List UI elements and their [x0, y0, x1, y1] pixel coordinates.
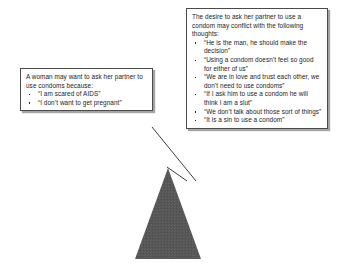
- bullet-dot-icon: [195, 120, 196, 121]
- list-item: “I am scared of AIDS”: [26, 90, 147, 99]
- list-item-label: “We don’t talk about those sort of thing…: [204, 108, 321, 115]
- bullet-dot-icon: [195, 94, 196, 95]
- list-item-label: “He is the man, he should make the decis…: [204, 39, 307, 55]
- list-item-label: “I am scared of AIDS”: [38, 90, 100, 97]
- connector-right-callout: [167, 167, 187, 181]
- bullet-dot-icon: [195, 42, 196, 43]
- callout-box-right: The desire to ask her partner to use a c…: [186, 8, 328, 129]
- bullet-dot-icon: [195, 111, 196, 112]
- bullet-dot-icon: [29, 102, 30, 103]
- list-item-label: “I don’t want to get pregnant”: [38, 99, 122, 106]
- list-item: “Using a condom doesn’t feel so good for…: [192, 56, 322, 73]
- bullet-dot-icon: [195, 77, 196, 78]
- list-item: “He is the man, he should make the decis…: [192, 39, 322, 56]
- callout-box-left: A woman may want to ask her partner to u…: [20, 68, 153, 111]
- list-item: “I don’t want to get pregnant”: [26, 99, 147, 108]
- diagram-canvas: A woman may want to ask her partner to u…: [0, 0, 338, 273]
- list-item-label: “It is a sin to use a condom”: [204, 116, 284, 123]
- list-item: “If I ask him to use a condom he will th…: [192, 90, 322, 107]
- bullet-dot-icon: [29, 94, 30, 95]
- callout-left-bullet-list: “I am scared of AIDS” “I don’t want to g…: [26, 90, 147, 107]
- list-item: “It is a sin to use a condom”: [192, 116, 322, 125]
- callout-right-body: The desire to ask her partner to use a c…: [187, 9, 327, 128]
- callout-right-lead: The desire to ask her partner to use a c…: [192, 13, 322, 39]
- callout-left-lead: A woman may want to ask her partner to u…: [26, 73, 147, 90]
- bullet-dot-icon: [195, 60, 196, 61]
- callout-left-body: A woman may want to ask her partner to u…: [21, 69, 152, 110]
- callout-right-bullet-list: “He is the man, he should make the decis…: [192, 39, 322, 125]
- list-item-label: “Using a condom doesn’t feel so good for…: [204, 56, 314, 72]
- list-item-label: “If I ask him to use a condom he will th…: [204, 90, 308, 106]
- list-item-label: “We are in love and trust each other, we…: [204, 73, 319, 89]
- connector-left-callout: [152, 127, 196, 181]
- list-item: “We are in love and trust each other, we…: [192, 73, 322, 90]
- list-item: “We don’t talk about those sort of thing…: [192, 108, 322, 117]
